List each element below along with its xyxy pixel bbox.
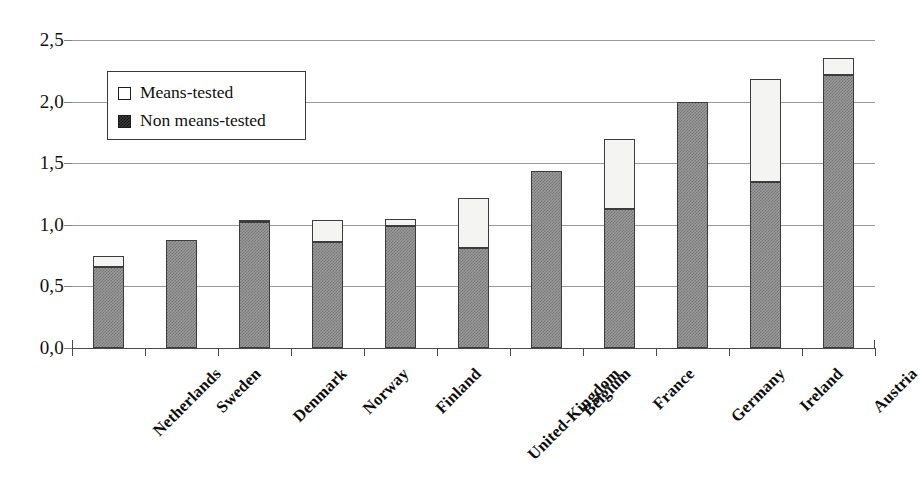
x-axis-tick-label: Netherlands <box>148 364 225 441</box>
bar-group[interactable] <box>531 40 562 348</box>
bar-segment-means-tested[interactable] <box>604 139 635 209</box>
gridline <box>72 348 875 349</box>
y-axis-tick-label: 2,5 <box>6 30 64 49</box>
bar-segment-non-means-tested[interactable] <box>604 209 635 348</box>
legend-label-means-tested: Means-tested <box>140 84 233 102</box>
x-axis-tick-label: Norway <box>358 364 413 419</box>
bar-segment-means-tested[interactable] <box>458 198 489 249</box>
bar-segment-non-means-tested[interactable] <box>458 248 489 348</box>
x-axis-tick-mark <box>291 348 292 356</box>
chart-legend: Means-tested Non means-tested <box>107 71 306 140</box>
x-axis-tick-label: France <box>648 364 698 414</box>
bar-group[interactable] <box>677 40 708 348</box>
bar-segment-non-means-tested[interactable] <box>823 75 854 349</box>
bar-group[interactable] <box>312 40 343 348</box>
x-axis-tick-mark <box>583 348 584 356</box>
bar-group[interactable] <box>750 40 781 348</box>
legend-swatch-means-tested-icon <box>118 87 131 100</box>
legend-item-non-means-tested[interactable]: Non means-tested <box>118 107 295 135</box>
legend-item-means-tested[interactable]: Means-tested <box>118 79 295 107</box>
x-axis-tick-label: Finland <box>431 364 485 418</box>
x-axis-tick-mark <box>729 348 730 356</box>
bar-group[interactable] <box>458 40 489 348</box>
y-axis-tick-mark <box>64 102 72 103</box>
legend-label-non-means-tested: Non means-tested <box>140 112 266 130</box>
x-axis-tick-label: Austria <box>868 364 921 417</box>
bar-segment-means-tested[interactable] <box>239 220 270 222</box>
bar-segment-means-tested[interactable] <box>823 58 854 74</box>
bar-segment-non-means-tested[interactable] <box>93 267 124 348</box>
y-axis-tick-label: 0,0 <box>6 338 64 357</box>
x-axis-tick-mark <box>364 348 365 356</box>
bar-segment-non-means-tested[interactable] <box>750 182 781 348</box>
x-axis-tick-label: United-Kingdom <box>523 364 623 464</box>
bar-segment-non-means-tested[interactable] <box>677 102 708 348</box>
bar-segment-non-means-tested[interactable] <box>239 222 270 348</box>
bar-segment-means-tested[interactable] <box>750 79 781 181</box>
y-axis-tick-mark <box>64 225 72 226</box>
y-axis: 0,00,51,01,52,02,5 <box>0 0 64 491</box>
x-axis-tick-mark <box>72 348 73 356</box>
x-axis-tick-mark <box>656 348 657 356</box>
y-axis-tick-mark <box>64 163 72 164</box>
y-axis-tick-mark <box>64 348 72 349</box>
y-axis-tick-mark <box>64 40 72 41</box>
bar-segment-means-tested[interactable] <box>93 256 124 267</box>
legend-swatch-non-means-tested-icon <box>118 115 131 128</box>
bar-group[interactable] <box>604 40 635 348</box>
bar-group[interactable] <box>385 40 416 348</box>
bar-segment-means-tested[interactable] <box>312 220 343 242</box>
bar-group[interactable] <box>823 40 854 348</box>
y-axis-tick-label: 1,0 <box>6 215 64 234</box>
y-axis-tick-label: 2,0 <box>6 92 64 111</box>
bar-segment-non-means-tested[interactable] <box>312 242 343 348</box>
x-axis-tick-mark <box>802 348 803 356</box>
x-axis-tick-label: Ireland <box>795 364 847 416</box>
x-axis-tick-mark <box>437 348 438 356</box>
x-axis-tick-mark <box>218 348 219 356</box>
y-axis-tick-label: 1,5 <box>6 153 64 172</box>
bar-segment-non-means-tested[interactable] <box>385 226 416 348</box>
x-axis-tick-mark <box>510 348 511 356</box>
bar-segment-non-means-tested[interactable] <box>166 240 197 348</box>
x-axis-tick-label: Denmark <box>289 364 351 426</box>
x-axis-tick-mark <box>145 348 146 356</box>
bar-segment-means-tested[interactable] <box>385 219 416 226</box>
y-axis-tick-mark <box>64 286 72 287</box>
x-axis-tick-label: Sweden <box>212 364 265 417</box>
bar-segment-non-means-tested[interactable] <box>531 171 562 348</box>
y-axis-tick-label: 0,5 <box>6 276 64 295</box>
x-axis-tick-label: Belgium <box>578 364 635 421</box>
x-axis-tick-label: Germany <box>727 364 789 426</box>
x-axis-tick-mark <box>875 348 876 356</box>
